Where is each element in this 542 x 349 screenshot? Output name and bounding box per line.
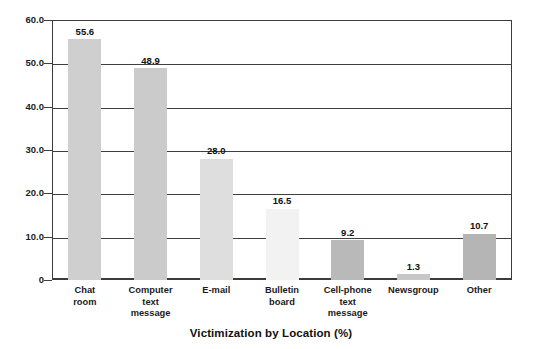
y-axis-tick-label: 0 (4, 275, 44, 285)
y-axis-tick-label: 60.0 (4, 15, 44, 25)
bar: 1.3 (397, 274, 430, 280)
bar: 55.6 (68, 39, 101, 280)
bar-value-label: 28.0 (207, 146, 226, 156)
y-axis-tick (44, 237, 52, 238)
y-axis-tick (44, 193, 52, 194)
chart-title: Victimization by Location (%) (0, 327, 542, 339)
x-axis-category-label: Other (446, 285, 512, 297)
category-labels: Chat roomComputer text messageE-mailBull… (52, 285, 512, 331)
x-axis-category-label: Cell-phone text message (315, 285, 381, 320)
bar: 16.5 (266, 209, 299, 281)
bar-value-label: 1.3 (407, 262, 420, 272)
x-axis-category-label: Computer text message (118, 285, 184, 320)
x-axis-category-label: Chat room (52, 285, 118, 308)
bars-layer: 55.648.928.016.59.21.310.7 (52, 20, 512, 280)
bar: 28.0 (200, 159, 233, 280)
bar: 10.7 (463, 234, 496, 280)
bar-value-label: 9.2 (341, 228, 354, 238)
y-axis-tick-label: 50.0 (4, 59, 44, 69)
bar-value-label: 10.7 (470, 221, 489, 231)
y-axis-tick-label: 40.0 (4, 102, 44, 112)
bar: 9.2 (331, 240, 364, 280)
bar-value-label: 55.6 (76, 27, 95, 37)
x-axis-category-label: Newsgroup (381, 285, 447, 297)
y-axis-tick-label: 30.0 (4, 145, 44, 155)
y-axis-labels: 010.020.030.040.050.060.0 (0, 0, 44, 349)
y-axis-tick (44, 63, 52, 64)
bar-value-label: 16.5 (273, 196, 292, 206)
bar-value-label: 48.9 (141, 56, 160, 66)
y-axis-tick (44, 20, 52, 21)
y-axis-tick-label: 10.0 (4, 232, 44, 242)
y-axis-tick (44, 150, 52, 151)
y-axis-tick (44, 107, 52, 108)
bar-chart: 010.020.030.040.050.060.0 55.648.928.016… (0, 0, 542, 349)
y-axis-tick-label: 20.0 (4, 189, 44, 199)
x-axis-category-label: Bulletin board (249, 285, 315, 308)
bar: 48.9 (134, 68, 167, 280)
y-axis-tick (44, 280, 52, 281)
x-axis-category-label: E-mail (183, 285, 249, 297)
